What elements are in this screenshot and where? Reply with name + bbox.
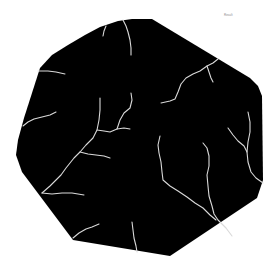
crack-mask-image [0, 0, 279, 270]
corner-label: Result [224, 13, 233, 17]
